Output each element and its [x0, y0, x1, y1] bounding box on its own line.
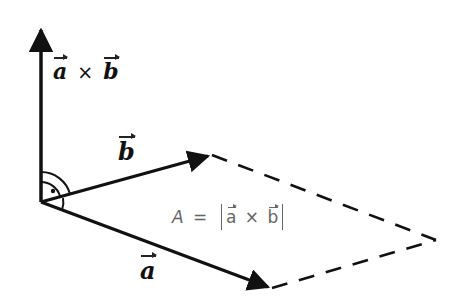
area-b: b [267, 207, 278, 227]
vector-b-label: b [118, 137, 135, 166]
cross-product-label: a × b [53, 58, 119, 84]
angle-arc-lower [62, 198, 63, 210]
angle-arc-inner [41, 182, 60, 196]
cross-op: × [77, 61, 93, 83]
right-angle-dot [51, 189, 55, 193]
cross-a: a [53, 58, 67, 84]
equals-sign: = [193, 207, 207, 227]
vector-a-label: a [140, 256, 156, 285]
a-label-text: a [140, 256, 156, 285]
abs-bar-left [221, 204, 222, 230]
area-symbol: A [172, 207, 184, 227]
area-op: × [245, 207, 259, 227]
diagram-canvas [0, 0, 465, 304]
abs-bar-right [282, 204, 283, 230]
area-formula: A = a × b [172, 204, 287, 230]
dashed-side-bottom [272, 240, 436, 288]
b-label-text: b [118, 137, 135, 166]
cross-b: b [103, 58, 118, 84]
area-a: a [226, 207, 236, 227]
